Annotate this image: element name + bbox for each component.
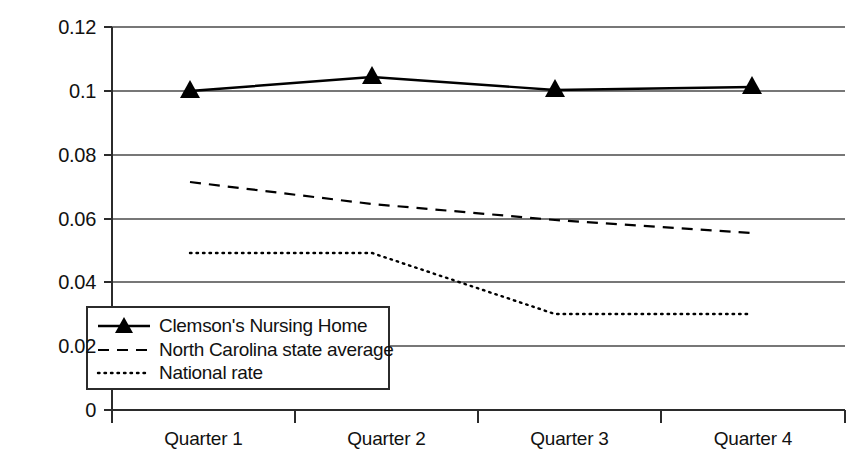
x-axis-label-quarter-3: Quarter 3 bbox=[478, 428, 661, 450]
y-axis-label-0.08: 0.08 bbox=[10, 144, 96, 167]
line-chart: 0.12 0.1 0.08 0.06 0.04 0.02 0 Quarter 1… bbox=[0, 0, 857, 453]
data-point-marker-q1 bbox=[180, 80, 200, 98]
legend-label-national-rate: National rate bbox=[159, 362, 263, 384]
data-point-marker-q2 bbox=[362, 66, 382, 84]
chart-canvas bbox=[0, 0, 857, 453]
series-clemson-nursing-home-markers bbox=[180, 66, 762, 98]
legend-label-nc-state-average: North Carolina state average bbox=[159, 339, 394, 361]
x-axis-label-quarter-1: Quarter 1 bbox=[112, 428, 295, 450]
series-national-rate-line bbox=[190, 253, 752, 314]
data-point-marker-q4 bbox=[742, 76, 762, 94]
gridlines bbox=[112, 27, 845, 346]
y-axis-label-0.1: 0.1 bbox=[10, 80, 96, 103]
series-nc-state-average-line bbox=[190, 182, 752, 233]
x-axis-label-quarter-2: Quarter 2 bbox=[295, 428, 478, 450]
x-axis-label-quarter-4: Quarter 4 bbox=[661, 428, 845, 450]
y-axis-label-0.02: 0.02 bbox=[10, 335, 96, 358]
series-clemson-nursing-home-line bbox=[190, 77, 752, 91]
data-point-marker-q3 bbox=[545, 79, 565, 97]
y-axis-label-0.04: 0.04 bbox=[10, 271, 96, 294]
x-axis-ticks bbox=[112, 410, 845, 423]
y-axis-label-0: 0 bbox=[10, 399, 96, 422]
y-axis-label-0.06: 0.06 bbox=[10, 208, 96, 231]
legend-label-clemson-nursing-home: Clemson's Nursing Home bbox=[159, 315, 367, 337]
y-axis-label-0.12: 0.12 bbox=[10, 16, 96, 39]
